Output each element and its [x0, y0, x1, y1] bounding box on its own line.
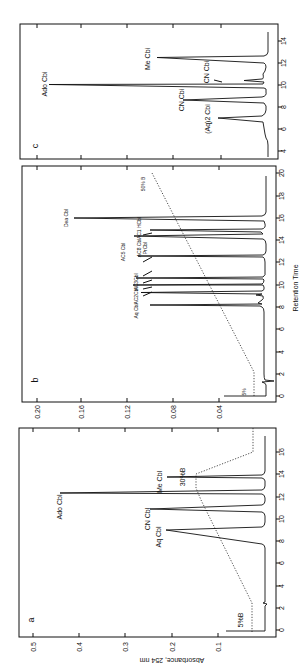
panel-a-time-tick-labels: 0 2 4 6 8 10 12 14 16 [278, 448, 285, 632]
peak-label-ado-cbi: Ado Cbi [41, 71, 48, 96]
tick-label: 0.08 [170, 405, 177, 419]
tick-label: 18 [278, 192, 285, 200]
tick-label: 14 [278, 470, 285, 478]
tick-label: 0.20 [34, 405, 41, 419]
tick-label: 0 [278, 628, 285, 632]
panel-a-letter: a [26, 617, 36, 622]
tick-label: 4 [278, 350, 285, 354]
gradient-label-end: 50% B [140, 176, 146, 191]
tick-label: 14 [278, 236, 285, 244]
panel-a: 0.5 0.4 0.3 0.2 0.1 Absorbance, 254 nm 0… [19, 428, 285, 664]
peak-label-ac1hcbl: AC1 HCbl [136, 217, 142, 239]
tick-label: 14 [280, 37, 287, 45]
panel-a-abs-ticks [33, 428, 218, 637]
tick-label: 6 [278, 327, 285, 331]
tick-label: 10 [280, 81, 287, 89]
peak-label-aq-cbl: Aq Cbl [155, 526, 163, 547]
panel-a-gradient [196, 428, 253, 632]
chromatogram-figure: 4 6 8 10 12 14 Ado Cbi Me Cbi CN Cbi CN … [0, 0, 306, 672]
tick-label: 0 [278, 394, 285, 398]
tick-label: 0.2 [169, 642, 176, 652]
panel-c-time-ticks [278, 41, 282, 151]
tick-label: 0.12 [124, 405, 131, 419]
tick-label: 8 [280, 105, 287, 109]
peak-label-ac5cbl: AC5 Cbl [120, 243, 126, 262]
panel-b-abs-ticks [37, 166, 219, 402]
peak-label-prcbl: PrCbl [142, 242, 148, 255]
tick-label: 0.3 [122, 642, 129, 652]
tick-label: 12 [278, 493, 285, 501]
panel-c-abs-ticks [37, 24, 221, 159]
tick-label: 12 [278, 258, 285, 266]
panel-c-frame [20, 24, 278, 159]
tick-label: 4 [280, 149, 287, 153]
tick-label: 0.16 [78, 405, 85, 419]
panel-a-frame [19, 428, 276, 637]
panel-b-time-tick-labels: 0 2 4 6 8 10 12 14 16 18 20 [278, 169, 285, 398]
panel-b: 0.20 0.16 0.12 0.08 0.04 0 2 4 6 8 10 12… [22, 166, 299, 419]
panel-c-letter: c [30, 143, 40, 148]
tick-label: 16 [278, 448, 285, 456]
peak-label-me-cbi: Me Cbi [144, 47, 151, 70]
panel-b-abs-tick-labels: 0.20 0.16 0.12 0.08 0.04 [34, 405, 223, 419]
peak-label-cn-cbi-2: CN Cbi [203, 60, 210, 83]
tick-label: 8 [278, 539, 285, 543]
tick-label: 4 [278, 584, 285, 588]
panel-c-time-tick-labels: 4 6 8 10 12 14 [280, 37, 287, 153]
peak-label-me-cbl: Me Cbl [156, 470, 163, 493]
panel-a-abs-tick-labels: 0.5 0.4 0.3 0.2 0.1 [30, 642, 222, 652]
tick-label: 0.4 [76, 642, 83, 652]
y-axis-title: Absorbance, 254 nm [140, 657, 205, 664]
peak-label-ac3cbl: AC3Cbl [133, 273, 139, 290]
gradient-label-start: 5% [241, 388, 247, 396]
tick-label: 20 [278, 169, 285, 177]
tick-label: 6 [280, 127, 287, 131]
tick-label: 0.1 [215, 642, 222, 652]
tick-label: 2 [278, 606, 285, 610]
tick-label: 2 [278, 372, 285, 376]
tick-label: 10 [278, 515, 285, 523]
peak-label-aq2-cbi: (Aq)2 Cbi [204, 104, 212, 134]
gradient-label-start: 5%B [237, 612, 244, 627]
panel-c: 4 6 8 10 12 14 Ado Cbi Me Cbi CN Cbi CN … [20, 24, 287, 159]
panel-a-trace [60, 436, 267, 631]
tick-label: 0.04 [216, 405, 223, 419]
peak-label-cn-cbl: CN Cbl [144, 507, 151, 530]
peak-label-aq-cbl: Aq Cbl [133, 303, 139, 318]
panel-c-trace [49, 32, 268, 157]
tick-label: 8 [278, 305, 285, 309]
peak-label-ado-cbl: Ado Cbl [56, 494, 63, 519]
tick-label: 12 [280, 59, 287, 67]
panel-b-letter: b [30, 377, 40, 382]
leader-line [214, 80, 222, 82]
panel-b-peak-labels: Aq Cbl AC2Cbl AC3Cbl AC5 Cbl AC8 Cbl PrC… [63, 209, 152, 319]
panel-b-trace [74, 176, 274, 396]
peak-label-cn-cbi-1: CN Cbi [178, 88, 185, 111]
tick-label: 6 [278, 561, 285, 565]
tick-label: 0.5 [30, 642, 37, 652]
x-axis-title: Retention Time [292, 264, 299, 311]
peak-label-dea-cbl: Dea Cbl [63, 209, 69, 227]
tick-label: 10 [278, 281, 285, 289]
tick-label: 16 [278, 214, 285, 222]
